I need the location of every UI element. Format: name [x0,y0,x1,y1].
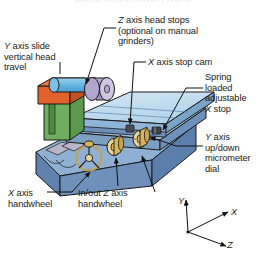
spring-loaded-stop-block [152,127,161,134]
axis-origin [186,230,189,233]
grinding-wheel [85,78,115,101]
axis-z-arrow [188,232,226,246]
callout-spring-loaded-x-stop: SpringloadedadjustableX stop [205,72,263,114]
axis-x-arrow [188,212,228,232]
axis-triad [186,200,228,246]
callout-y-axis-slide: Y axis slidevertical headtravel [4,41,82,73]
axis-label-x: X [231,207,237,217]
axis-y-arrow [186,200,188,232]
figure-canvas: Manual Surface Grinder Controls [0,0,266,256]
grinding-wheel-hub [104,85,109,93]
x-axis-stop-cam-block [126,125,134,132]
y-axis-vertical-slide [49,100,55,134]
axis-label-z: Z [227,240,233,250]
callout-z-axis-handwheel: In/out Z axishandwheel [78,188,156,209]
callout-x-axis-handwheel: X axishandwheel [8,188,70,209]
leader-z-head-stops [86,28,104,84]
callout-z-axis-head-stops: Z axis head stops(optional on manualgrin… [118,15,228,47]
callout-x-axis-stop-cam: X axis stop cam [148,57,258,68]
axis-label-y: Y [178,196,184,206]
callout-y-axis-micrometer-dial: Y axisup/downmicrometerdial [205,132,265,174]
